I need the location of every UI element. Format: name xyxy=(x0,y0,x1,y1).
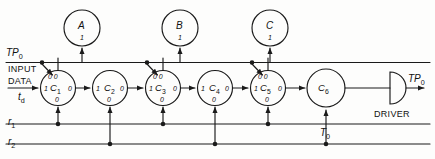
flipflop-c2-left-terminal: 1 xyxy=(96,85,100,92)
flipflop-c4-left-terminal: 1 xyxy=(201,85,205,92)
flipflop-c4-label: C4 xyxy=(209,83,220,96)
r1-junction-c1 xyxy=(56,122,61,127)
input-delay-label: td xyxy=(18,92,25,104)
circuit-diagram: TP0 INPUT DATA td r1 r2 A 1 B 1 C 1 C1 0… xyxy=(0,0,435,159)
flipflop-c3-top-terminal: 0 0 xyxy=(153,73,163,80)
flipflop-c4-bottom-terminal: 0 xyxy=(212,96,216,103)
state-circle-c-label: C xyxy=(266,21,273,31)
rail-tap-c5 xyxy=(250,60,255,65)
flipflop-c1-label: C1 xyxy=(50,83,61,96)
flipflop-c3-left-terminal: 1 xyxy=(149,85,153,92)
flipflop-c5-bottom-terminal: 0 xyxy=(265,96,269,103)
flipflop-c2-label: C2 xyxy=(104,83,115,96)
flipflop-c4-right-terminal: 0 xyxy=(225,85,229,92)
flipflop-c1-top-terminal: 0 0 xyxy=(48,73,58,80)
flipflop-c1-left-terminal: 1 xyxy=(44,85,48,92)
flipflop-c3-right-terminal: 0 xyxy=(173,85,177,92)
reset-rail-label-r2: r2 xyxy=(8,137,15,149)
state-circle-c-terminal: 1 xyxy=(268,34,272,41)
state-circle-b-terminal: 1 xyxy=(178,34,182,41)
flipflop-c2-bottom-terminal: 0 xyxy=(107,96,111,103)
flipflop-c2-right-terminal: 0 xyxy=(120,85,124,92)
flipflop-c1-bottom-terminal: 0 xyxy=(55,96,59,103)
state-circle-a-label: A xyxy=(78,21,85,31)
input-label-line1: INPUT xyxy=(8,65,37,74)
r2-junction-c2 xyxy=(108,142,113,147)
r2-junction-c6 xyxy=(324,142,329,147)
state-circle-b-label: B xyxy=(176,21,183,31)
output-label: TP0 xyxy=(408,74,425,86)
driver-symbol xyxy=(390,72,406,104)
flipflop-c3-bottom-terminal: 0 xyxy=(160,96,164,103)
flipflop-c3-label: C3 xyxy=(155,83,166,96)
input-label-line2: DATA xyxy=(8,77,32,86)
flipflop-c5-top-terminal: 0 0 xyxy=(258,73,268,80)
diagram-canvas xyxy=(0,0,435,159)
reset-rail-label-r1: r1 xyxy=(8,117,15,129)
r2-junction-c4 xyxy=(213,142,218,147)
flipflop-c5-right-terminal: 0 xyxy=(278,85,282,92)
t0-tap-label: T0 xyxy=(320,128,330,140)
rail-tap-c3 xyxy=(145,60,150,65)
flipflop-c6-label: C6 xyxy=(318,83,329,96)
flipflop-c5-left-terminal: 1 xyxy=(254,85,258,92)
flipflop-c1-right-terminal: 0 xyxy=(68,85,72,92)
clock-rail-label: TP0 xyxy=(6,48,23,60)
rail-tap-c1 xyxy=(40,60,45,65)
flipflop-c5-label: C5 xyxy=(260,83,271,96)
driver-label: DRIVER xyxy=(374,110,410,119)
r1-junction-c5 xyxy=(266,122,271,127)
r1-junction-c3 xyxy=(161,122,166,127)
state-circle-a-terminal: 1 xyxy=(80,34,84,41)
